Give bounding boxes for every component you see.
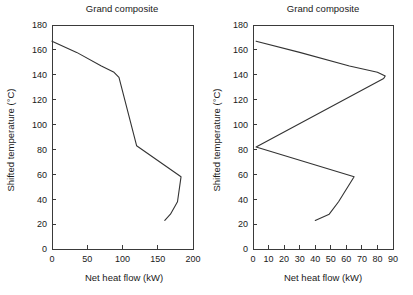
x-tick-label: 150 <box>150 254 165 264</box>
y-tick-label: 60 <box>37 170 47 180</box>
y-tick-label: 160 <box>32 45 47 55</box>
y-axis-title-right: Shifted temperature (°C) <box>211 88 222 191</box>
y-tick-label: 180 <box>233 20 248 30</box>
y-tick-label: 120 <box>32 95 47 105</box>
x-tick-label: 40 <box>310 254 320 264</box>
x-tick-label: 0 <box>250 254 255 264</box>
chart-title-left: Grand composite <box>86 3 158 14</box>
y-axis-tick-labels-left: 020406080100120140160180 <box>32 20 47 254</box>
y-tick-label: 140 <box>32 70 47 80</box>
x-tick-label: 50 <box>326 254 336 264</box>
y-tick-label: 40 <box>37 195 47 205</box>
x-tick-label: 100 <box>115 254 130 264</box>
chart-title-right: Grand composite <box>287 3 359 14</box>
x-axis-ticks-right <box>253 245 393 249</box>
x-tick-label: 50 <box>82 254 92 264</box>
x-tick-label: 90 <box>388 254 398 264</box>
y-axis-ticks-left <box>52 25 56 249</box>
x-axis-title-right: Net heat flow (kW) <box>284 272 362 283</box>
y-tick-label: 180 <box>32 20 47 30</box>
x-tick-label: 80 <box>372 254 382 264</box>
x-axis-title-left: Net heat flow (kW) <box>85 272 163 283</box>
chart-panel-left: Grand composite 020406080100120140160180… <box>0 0 206 295</box>
y-tick-label: 160 <box>233 45 248 55</box>
x-axis-tick-labels-right: 0102030405060708090 <box>250 254 398 264</box>
x-axis-ticks-left <box>52 245 193 249</box>
x-axis-tick-labels-left: 050100150200 <box>49 254 200 264</box>
data-series-line-right <box>256 41 385 220</box>
y-tick-label: 140 <box>233 70 248 80</box>
chart-svg-left: Grand composite 020406080100120140160180… <box>0 0 206 295</box>
y-tick-label: 20 <box>238 219 248 229</box>
chart-panel-right: Grand composite 020406080100120140160180… <box>206 0 413 295</box>
y-tick-label: 0 <box>42 244 47 254</box>
y-tick-label: 100 <box>233 120 248 130</box>
x-tick-label: 70 <box>357 254 367 264</box>
x-tick-label: 200 <box>185 254 200 264</box>
x-tick-label: 10 <box>264 254 274 264</box>
y-tick-label: 60 <box>238 170 248 180</box>
y-tick-label: 0 <box>243 244 248 254</box>
x-tick-label: 30 <box>295 254 305 264</box>
figure-container: Grand composite 020406080100120140160180… <box>0 0 413 295</box>
x-tick-label: 0 <box>49 254 54 264</box>
y-axis-tick-labels-right: 020406080100120140160180 <box>233 20 248 254</box>
y-axis-ticks-right <box>253 25 257 249</box>
y-tick-label: 80 <box>37 145 47 155</box>
y-tick-label: 120 <box>233 95 248 105</box>
y-axis-title-left: Shifted temperature (°C) <box>5 88 16 191</box>
y-tick-label: 40 <box>238 195 248 205</box>
plot-frame-left <box>52 25 193 249</box>
x-tick-label: 20 <box>279 254 289 264</box>
y-tick-label: 20 <box>37 219 47 229</box>
y-tick-label: 80 <box>238 145 248 155</box>
chart-svg-right: Grand composite 020406080100120140160180… <box>206 0 413 295</box>
x-tick-label: 60 <box>341 254 351 264</box>
y-tick-label: 100 <box>32 120 47 130</box>
data-series-line-left <box>52 41 181 220</box>
